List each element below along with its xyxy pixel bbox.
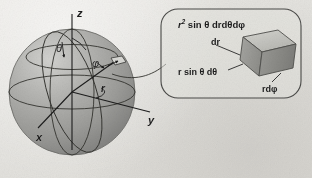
radius-label: r <box>101 84 105 94</box>
theta-label: θ <box>56 43 62 54</box>
dr-label: dr <box>211 38 220 47</box>
r-dphi-label: rdφ <box>262 85 277 94</box>
volume-formula-rest: sin θ drdθdφ <box>185 19 245 30</box>
x-axis-label: x <box>36 132 42 143</box>
r-sin-theta-dtheta-label: r sin θ dθ <box>178 68 217 77</box>
figure-canvas: z x y θ φ r r2 sin θ drdθdφ dr r sin θ d… <box>0 0 312 178</box>
volume-formula: r2 sin θ drdθdφ <box>178 19 245 30</box>
phi-label: φ <box>92 58 99 69</box>
y-axis-label: y <box>148 115 154 126</box>
z-axis-label: z <box>77 8 83 19</box>
